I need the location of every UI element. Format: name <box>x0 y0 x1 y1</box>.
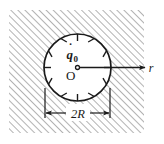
origin-label: O <box>66 68 75 83</box>
heat-generation-subscript: 0 <box>74 54 79 64</box>
origin-point-icon <box>76 66 80 70</box>
figure-canvas: · q 0 O r 2R <box>0 0 164 144</box>
diameter-dimension-label: 2R <box>71 107 85 121</box>
radial-axis-label: r <box>149 61 154 75</box>
heat-generation-label: q <box>67 47 74 62</box>
heat-transfer-cross-section-figure: · q 0 O r 2R <box>0 0 164 144</box>
